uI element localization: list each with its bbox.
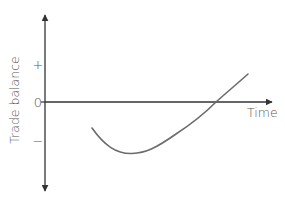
y-tick-plus: + bbox=[33, 58, 44, 71]
x-axis-title: Time bbox=[247, 107, 278, 120]
y-tick-zero: 0 bbox=[34, 96, 42, 109]
trade-balance-curve bbox=[92, 74, 248, 154]
y-tick-minus: − bbox=[33, 135, 44, 148]
j-curve-diagram bbox=[0, 0, 285, 199]
y-axis-title: Trade balance bbox=[9, 56, 22, 143]
